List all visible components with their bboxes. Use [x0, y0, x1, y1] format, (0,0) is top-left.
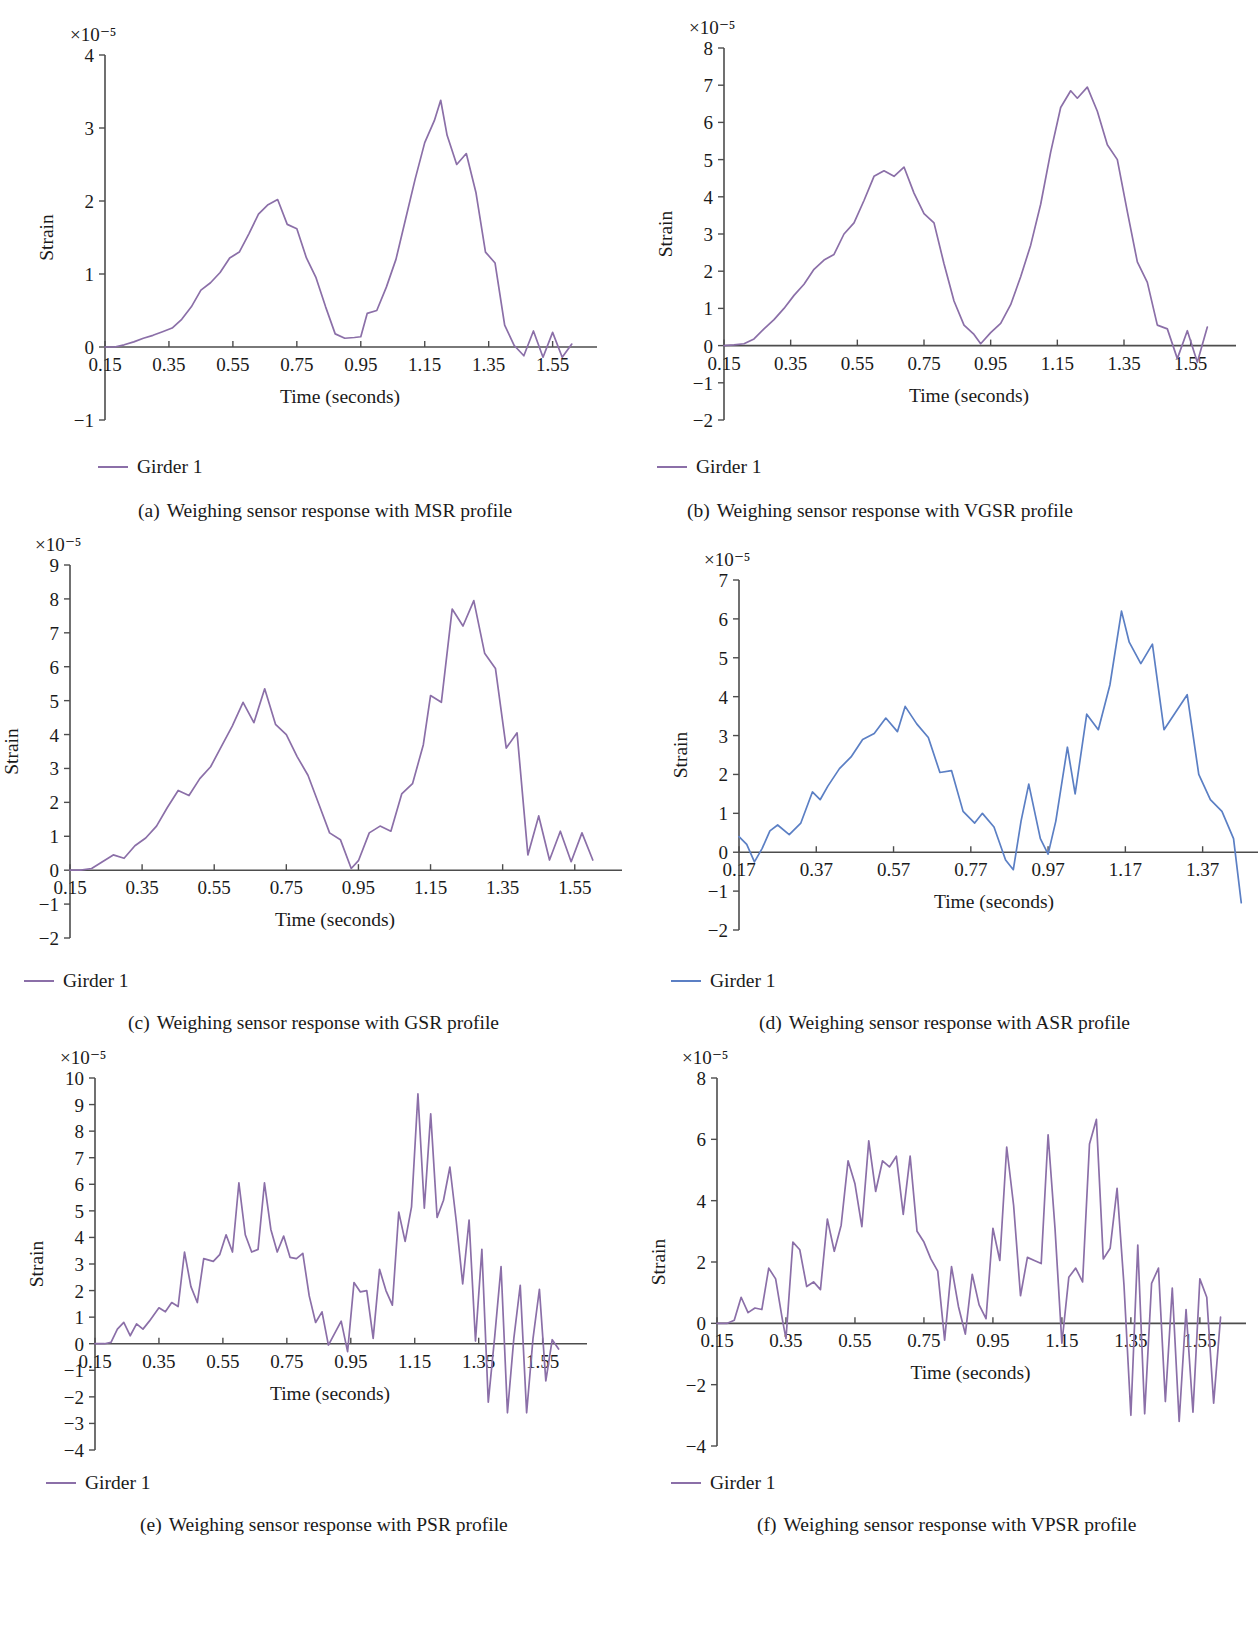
chart-svg-a: ×10⁻⁵−1012340.150.350.550.750.951.151.35…: [0, 0, 629, 440]
x-ticklabel-e-5: 1.15: [398, 1351, 431, 1372]
plot-e: ×10⁻⁵−4−3−2−10123456789100.150.350.550.7…: [0, 1038, 629, 1458]
panel-c: ×10⁻⁵−2−101234567890.150.350.550.750.951…: [0, 530, 629, 1034]
x-axis-title-c: Time (seconds): [275, 909, 395, 931]
x-ticklabel-f-0: 0.15: [700, 1330, 733, 1351]
x-ticklabel-c-2: 0.55: [198, 877, 231, 898]
x-ticklabel-e-3: 0.75: [270, 1351, 303, 1372]
legend-label-b: Girder 1: [696, 456, 762, 478]
caption-index-e: (e): [140, 1514, 162, 1535]
x-ticklabel-a-4: 0.95: [344, 354, 377, 375]
x-ticklabel-b-5: 1.15: [1041, 353, 1074, 374]
caption-index-f: (f): [757, 1514, 776, 1535]
x-ticklabel-c-6: 1.35: [486, 877, 519, 898]
y-ticklabel-d-3: 1: [719, 803, 729, 824]
x-ticklabel-f-4: 0.95: [976, 1330, 1009, 1351]
caption-index-c: (c): [128, 1012, 150, 1033]
y-axis-title-f: Strain: [648, 1238, 669, 1285]
y-axis-title-c: Strain: [1, 728, 22, 775]
y-ticklabel-c-0: −2: [39, 928, 59, 949]
caption-text-e: Weighing sensor response with PSR profil…: [169, 1514, 508, 1535]
y-ticklabel-b-10: 8: [704, 38, 714, 59]
y-exponent-label-a: ×10⁻⁵: [70, 24, 116, 45]
chart-svg-d: ×10⁻⁵−2−1012345670.170.370.570.770.971.1…: [629, 530, 1258, 960]
x-ticklabel-c-3: 0.75: [270, 877, 303, 898]
y-ticklabel-b-5: 3: [704, 224, 714, 245]
y-ticklabel-f-0: −4: [686, 1436, 707, 1457]
series-line-c-0: [70, 601, 593, 871]
chart-svg-e: ×10⁻⁵−4−3−2−10123456789100.150.350.550.7…: [0, 1038, 629, 1458]
x-ticklabel-a-2: 0.55: [216, 354, 249, 375]
y-ticklabel-a-4: 3: [85, 118, 95, 139]
legend-f: Girder 1: [671, 1472, 1258, 1494]
y-ticklabel-d-7: 5: [719, 648, 729, 669]
y-ticklabel-e-10: 6: [75, 1174, 85, 1195]
series-line-b-0: [724, 87, 1207, 362]
panel-b: ×10⁻⁵−2−10123456780.150.350.550.750.951.…: [629, 0, 1258, 522]
plot-b: ×10⁻⁵−2−10123456780.150.350.550.750.951.…: [629, 0, 1258, 440]
y-ticklabel-f-3: 2: [697, 1252, 707, 1273]
caption-e: (e)Weighing sensor response with PSR pro…: [140, 1514, 629, 1536]
x-axis-title-b: Time (seconds): [909, 385, 1029, 407]
y-ticklabel-a-3: 2: [85, 191, 95, 212]
y-ticklabel-b-8: 6: [704, 112, 714, 133]
y-ticklabel-b-7: 5: [704, 150, 714, 171]
caption-text-b: Weighing sensor response with VGSR profi…: [717, 500, 1073, 521]
x-axis-title-d: Time (seconds): [934, 891, 1054, 913]
y-ticklabel-f-6: 8: [697, 1068, 707, 1089]
legend-label-c: Girder 1: [63, 970, 129, 992]
y-ticklabel-d-8: 6: [719, 609, 729, 630]
y-ticklabel-b-0: −2: [693, 410, 713, 431]
y-ticklabel-e-7: 3: [75, 1254, 85, 1275]
chart-body-b: ×10⁻⁵−2−10123456780.150.350.550.750.951.…: [655, 17, 1236, 431]
y-ticklabel-c-3: 1: [50, 826, 60, 847]
caption-text-f: Weighing sensor response with VPSR profi…: [783, 1514, 1136, 1535]
y-ticklabel-c-4: 2: [50, 792, 60, 813]
x-axis-title-f: Time (seconds): [910, 1362, 1030, 1384]
chart-svg-b: ×10⁻⁵−2−10123456780.150.350.550.750.951.…: [629, 0, 1258, 440]
x-ticklabel-d-6: 1.37: [1186, 859, 1219, 880]
legend-swatch-e: [46, 1482, 76, 1484]
legend-label-a: Girder 1: [137, 456, 203, 478]
x-ticklabel-c-5: 1.15: [414, 877, 447, 898]
y-axis-title-d: Strain: [670, 731, 691, 778]
y-ticklabel-b-4: 2: [704, 261, 714, 282]
y-exponent-label-e: ×10⁻⁵: [60, 1047, 106, 1068]
caption-text-c: Weighing sensor response with GSR profil…: [157, 1012, 499, 1033]
plot-c: ×10⁻⁵−2−101234567890.150.350.550.750.951…: [0, 530, 629, 960]
x-ticklabel-a-1: 0.35: [152, 354, 185, 375]
legend-b: Girder 1: [657, 456, 1258, 478]
x-ticklabel-c-7: 1.55: [558, 877, 591, 898]
x-axis-title-e: Time (seconds): [270, 1383, 390, 1405]
caption-b: (b)Weighing sensor response with VGSR pr…: [687, 500, 1258, 522]
plot-d: ×10⁻⁵−2−1012345670.170.370.570.770.971.1…: [629, 530, 1258, 960]
x-ticklabel-d-3: 0.77: [954, 859, 987, 880]
y-ticklabel-e-0: −4: [64, 1440, 85, 1461]
caption-index-b: (b): [687, 500, 710, 521]
panel-e: ×10⁻⁵−4−3−2−10123456789100.150.350.550.7…: [0, 1038, 629, 1536]
legend-label-d: Girder 1: [710, 970, 776, 992]
y-ticklabel-c-8: 6: [50, 657, 60, 678]
caption-index-a: (a): [138, 500, 160, 521]
x-ticklabel-a-6: 1.35: [472, 354, 505, 375]
x-ticklabel-b-0: 0.15: [707, 353, 740, 374]
y-axis-title-b: Strain: [655, 210, 676, 257]
chart-body-c: ×10⁻⁵−2−101234567890.150.350.550.750.951…: [1, 534, 622, 949]
x-ticklabel-a-0: 0.15: [88, 354, 121, 375]
caption-index-d: (d): [759, 1012, 782, 1033]
y-ticklabel-d-0: −2: [708, 920, 728, 941]
x-ticklabel-e-2: 0.55: [206, 1351, 239, 1372]
chart-body-a: ×10⁻⁵−1012340.150.350.550.750.951.151.35…: [36, 24, 597, 431]
y-ticklabel-e-11: 7: [75, 1148, 85, 1169]
x-ticklabel-d-0: 0.17: [722, 859, 755, 880]
caption-text-d: Weighing sensor response with ASR profil…: [789, 1012, 1130, 1033]
y-ticklabel-d-5: 3: [719, 726, 729, 747]
legend-a: Girder 1: [98, 456, 629, 478]
legend-swatch-b: [657, 466, 687, 468]
x-ticklabel-d-2: 0.57: [877, 859, 910, 880]
y-ticklabel-e-8: 4: [75, 1227, 85, 1248]
figure-row-2: ×10⁻⁵−2−101234567890.150.350.550.750.951…: [0, 530, 1258, 1034]
y-ticklabel-b-1: −1: [693, 373, 713, 394]
y-ticklabel-d-1: −1: [708, 881, 728, 902]
legend-label-e: Girder 1: [85, 1472, 151, 1494]
x-ticklabel-e-0: 0.15: [78, 1351, 111, 1372]
